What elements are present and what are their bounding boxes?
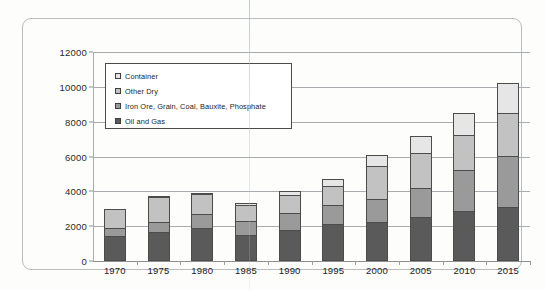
- y-axis-tick-label: 2000: [65, 221, 87, 232]
- bar-segment: [322, 224, 344, 261]
- bar-stack: [148, 196, 170, 261]
- x-axis-tick-label: 2010: [440, 265, 488, 276]
- bar-segment: [366, 222, 388, 261]
- bar-segment: [235, 235, 257, 261]
- x-axis-tick-label: 2000: [353, 265, 401, 276]
- legend-swatch-icon: [115, 73, 121, 79]
- bar-segment: [279, 230, 301, 261]
- bar-segment: [410, 153, 432, 188]
- chart-frame: 020004000600080001000012000 197019751980…: [22, 18, 522, 270]
- bar-segment: [410, 217, 432, 261]
- bar-stack: [191, 193, 213, 261]
- bar-segment: [497, 83, 519, 113]
- bar-segment: [148, 232, 170, 261]
- x-axis-tick-label: 1970: [91, 265, 139, 276]
- bar-segment: [497, 207, 519, 261]
- bar-segment: [148, 222, 170, 232]
- x-axis-tick-label: 1985: [222, 265, 270, 276]
- bar-segment: [279, 195, 301, 213]
- bar-segment: [453, 135, 475, 171]
- bar-segment: [410, 188, 432, 217]
- y-axis-tick-label: 0: [82, 256, 87, 267]
- y-axis-tick-label: 12000: [60, 47, 87, 58]
- bar-stack: [279, 191, 301, 261]
- bar-segment: [191, 194, 213, 214]
- y-axis-tick-label: 4000: [65, 186, 87, 197]
- bar-stack: [410, 136, 432, 261]
- legend-item-label: Container: [125, 72, 158, 81]
- legend-item: Other Dry: [115, 84, 291, 98]
- bar-segment: [410, 136, 432, 153]
- bar-segment: [453, 170, 475, 210]
- x-axis-tick-label: 1990: [266, 265, 314, 276]
- legend-item: Iron Ore, Grain, Coal, Bauxite, Phosphat…: [115, 99, 291, 113]
- bar-segment: [235, 221, 257, 235]
- legend-swatch-icon: [115, 88, 121, 94]
- bar-stack: [235, 203, 257, 261]
- bar-segment: [104, 228, 126, 236]
- bar-segment: [497, 113, 519, 156]
- bar-stack: [104, 209, 126, 261]
- x-axis-tick-label: 2005: [397, 265, 445, 276]
- bar-segment: [235, 205, 257, 222]
- bar-segment: [148, 197, 170, 222]
- legend-item: Container: [115, 69, 291, 83]
- bar-stack: [497, 83, 519, 261]
- legend-item-label: Other Dry: [125, 87, 158, 96]
- bar-segment: [366, 166, 388, 199]
- bar-stack: [453, 113, 475, 261]
- legend-item: Oil and Gas: [115, 114, 291, 128]
- legend-item-label: Iron Ore, Grain, Coal, Bauxite, Phosphat…: [125, 102, 266, 111]
- legend-items: ContainerOther DryIron Ore, Grain, Coal,…: [115, 69, 291, 128]
- bar-segment: [453, 113, 475, 135]
- bar-segment: [322, 186, 344, 204]
- bar-segment: [191, 228, 213, 261]
- bar-stack: [366, 155, 388, 261]
- x-axis-tick-label: 1980: [178, 265, 226, 276]
- y-axis-tick-label: 8000: [65, 116, 87, 127]
- bar-segment: [366, 199, 388, 222]
- x-axis-tick-label: 1995: [309, 265, 357, 276]
- y-axis-tick-label: 6000: [65, 151, 87, 162]
- x-axis-tick-label: 2015: [484, 265, 532, 276]
- bar-segment: [104, 209, 126, 228]
- bar-segment: [453, 211, 475, 261]
- bar-segment: [366, 155, 388, 166]
- bar-segment: [322, 179, 344, 186]
- chart-legend: ContainerOther DryIron Ore, Grain, Coal,…: [105, 63, 292, 129]
- bar-segment: [497, 156, 519, 207]
- bar-segment: [104, 236, 126, 261]
- y-axis-tick-label: 10000: [60, 81, 87, 92]
- bar-segment: [279, 213, 301, 230]
- legend-swatch-icon: [115, 118, 121, 124]
- x-axis-tick-label: 1975: [135, 265, 183, 276]
- legend-item-label: Oil and Gas: [125, 117, 165, 126]
- legend-swatch-icon: [115, 103, 121, 109]
- bar-stack: [322, 179, 344, 261]
- bar-segment: [322, 205, 344, 224]
- bar-segment: [191, 214, 213, 228]
